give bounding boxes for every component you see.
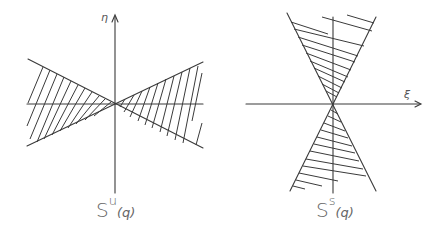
caption-base: S [96, 198, 109, 222]
caption-superscript: s [329, 193, 336, 208]
caption-argument: (q) [335, 205, 353, 220]
caption-base: S [316, 198, 329, 222]
eta-axis-label: η [101, 11, 108, 24]
hatching-right-wedge [120, 66, 202, 145]
cone-diagrams [0, 0, 441, 235]
cone-edge [287, 13, 376, 191]
caption-superscript: u [109, 193, 117, 208]
xi-axis-label: ξ [404, 88, 410, 101]
unstable-cone-figure [27, 15, 203, 193]
caption-unstable-cone: Su(q) [96, 197, 135, 222]
caption-argument: (q) [117, 205, 135, 220]
stable-cone-figure [246, 13, 421, 193]
caption-stable-cone: Ss(q) [316, 197, 354, 222]
